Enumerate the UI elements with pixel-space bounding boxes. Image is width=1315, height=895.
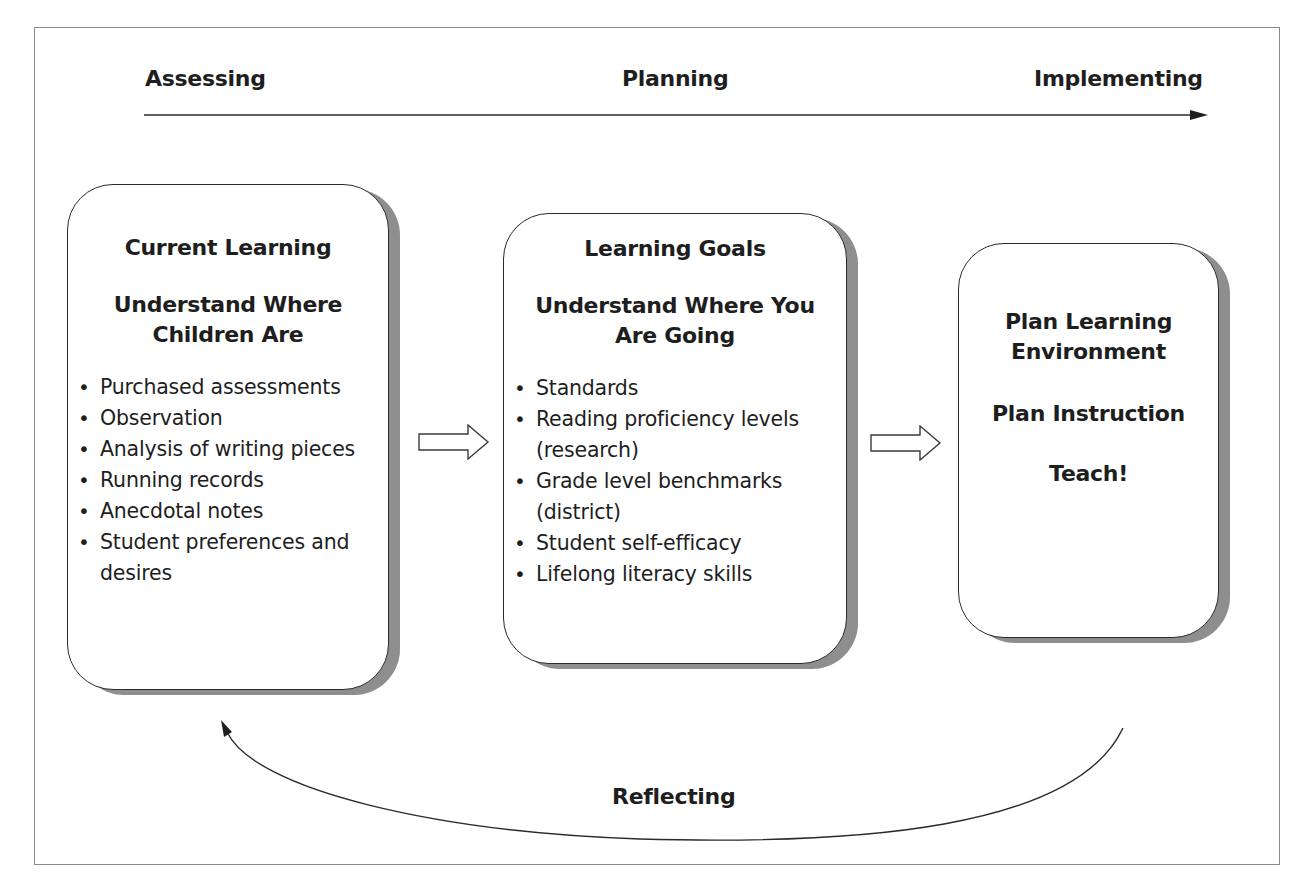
list-item: Grade level benchmarks (district) bbox=[504, 466, 840, 528]
current-learning-box: Current Learning Understand Where Childr… bbox=[67, 184, 389, 690]
list-item: Lifelong literacy skills bbox=[504, 559, 840, 590]
learning-goals-list: Standards Reading proficiency levels (re… bbox=[504, 373, 846, 590]
learning-goals-title: Learning Goals bbox=[504, 234, 846, 264]
right-arrow-icon bbox=[418, 424, 490, 460]
current-learning-subtitle-line-2: Children Are bbox=[68, 320, 388, 350]
current-learning-title: Current Learning bbox=[68, 233, 388, 263]
plan-learning-environment-line-2: Environment bbox=[959, 337, 1218, 367]
list-item: Analysis of writing pieces bbox=[68, 434, 380, 465]
list-item: Reading proficiency levels (research) bbox=[504, 404, 840, 466]
phase-assessing-label: Assessing bbox=[145, 66, 266, 91]
current-learning-subtitle-line-1: Understand Where bbox=[68, 290, 388, 320]
learning-goals-subtitle-line-1: Understand Where You bbox=[504, 291, 846, 321]
timeline-arrow-icon bbox=[144, 100, 1208, 120]
teach-label: Teach! bbox=[959, 459, 1218, 489]
phase-implementing-label: Implementing bbox=[1034, 66, 1203, 91]
right-arrow-icon bbox=[870, 425, 942, 461]
list-item: Standards bbox=[504, 373, 840, 404]
current-learning-list: Purchased assessments Observation Analys… bbox=[68, 372, 388, 589]
list-item: Student self-efficacy bbox=[504, 528, 840, 559]
phase-planning-label: Planning bbox=[622, 66, 728, 91]
list-item: Anecdotal notes bbox=[68, 496, 380, 527]
list-item: Running records bbox=[68, 465, 380, 496]
plan-learning-environment-line-1: Plan Learning bbox=[959, 307, 1218, 337]
list-item: Purchased assessments bbox=[68, 372, 380, 403]
learning-goals-box: Learning Goals Understand Where You Are … bbox=[503, 213, 847, 664]
plan-instruction-label: Plan Instruction bbox=[959, 399, 1218, 429]
reflecting-label: Reflecting bbox=[612, 784, 735, 809]
list-item: Observation bbox=[68, 403, 380, 434]
implementing-box: Plan Learning Environment Plan Instructi… bbox=[958, 243, 1219, 638]
list-item: Student preferences and desires bbox=[68, 527, 380, 589]
learning-goals-subtitle-line-2: Are Going bbox=[504, 321, 846, 351]
